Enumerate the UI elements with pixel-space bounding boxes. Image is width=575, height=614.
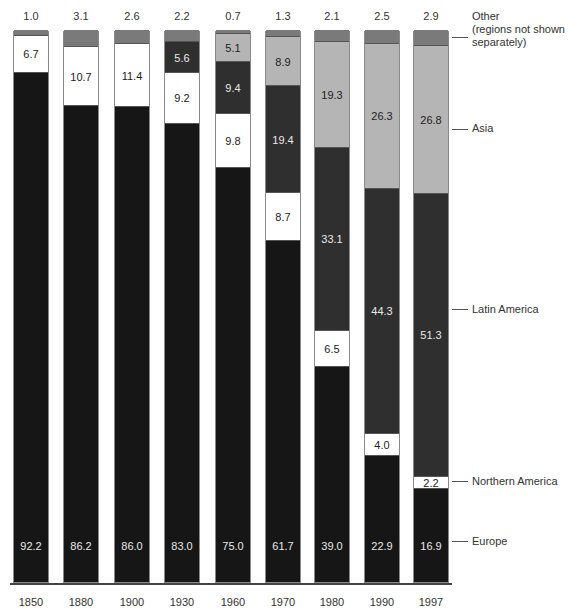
bar-1997: 16.92.251.326.8 — [413, 31, 449, 583]
legend-leader-line — [452, 541, 468, 542]
x-tick-label-1997: 1997 — [409, 596, 453, 608]
segment-europe-1997: 16.9 — [414, 489, 448, 582]
segment-northern-1880: 10.7 — [64, 47, 98, 106]
segment-europe-1970: 61.7 — [266, 241, 300, 582]
x-tick-label-1880: 1880 — [59, 596, 103, 608]
bar-1900: 86.011.4 — [114, 31, 150, 583]
value-label: 4.0 — [365, 439, 399, 451]
value-label: 6.5 — [315, 343, 349, 355]
legend-label-asia: Asia — [472, 122, 493, 135]
segment-latin-1980: 33.1 — [315, 148, 349, 331]
segment-northern-1990: 4.0 — [365, 434, 399, 456]
segment-latin-1997: 51.3 — [414, 194, 448, 477]
x-tick-label-1990: 1990 — [360, 596, 404, 608]
segment-other-1980 — [315, 30, 349, 42]
x-tick-label-1980: 1980 — [310, 596, 354, 608]
value-label: 61.7 — [266, 540, 300, 552]
segment-other-1990 — [365, 30, 399, 44]
bar-1980: 39.06.533.119.3 — [314, 31, 350, 583]
segment-europe-1880: 86.2 — [64, 106, 98, 582]
bar-1970: 61.78.719.48.9 — [265, 31, 301, 583]
x-tick-label-1900: 1900 — [110, 596, 154, 608]
other-value-label-1997: 2.9 — [411, 10, 451, 22]
other-value-label-1930: 2.2 — [162, 10, 202, 22]
value-label: 75.0 — [216, 540, 250, 552]
legend-leader-line — [452, 481, 468, 482]
value-label: 51.3 — [414, 329, 448, 341]
legend-label-europe: Europe — [472, 535, 507, 548]
legend-leader-line — [452, 129, 468, 130]
x-tick-label-1970: 1970 — [261, 596, 305, 608]
other-value-label-1990: 2.5 — [362, 10, 402, 22]
other-value-label-1850: 1.0 — [11, 10, 51, 22]
other-value-label-1880: 3.1 — [61, 10, 101, 22]
legend-label-northern-america: Northern America — [472, 475, 558, 488]
segment-asia-1997: 26.8 — [414, 46, 448, 194]
segment-asia-1970: 8.9 — [266, 37, 300, 86]
value-label: 5.6 — [165, 52, 199, 64]
value-label: 19.3 — [315, 89, 349, 101]
value-label: 92.2 — [14, 540, 48, 552]
value-label: 86.0 — [115, 540, 149, 552]
legend-label-other: Other (regions not shown separately) — [472, 10, 565, 49]
segment-northern-1970: 8.7 — [266, 193, 300, 241]
segment-other-1970 — [266, 30, 300, 37]
segment-europe-1850: 92.2 — [14, 73, 48, 582]
value-label: 9.2 — [165, 92, 199, 104]
x-axis-baseline — [10, 583, 452, 585]
value-label: 33.1 — [315, 233, 349, 245]
bar-1850: 92.26.7 — [13, 31, 49, 583]
value-label: 26.8 — [414, 114, 448, 126]
value-label: 22.9 — [365, 540, 399, 552]
segment-asia-1960: 5.1 — [216, 34, 250, 62]
value-label: 83.0 — [165, 540, 199, 552]
x-tick-label-1850: 1850 — [9, 596, 53, 608]
segment-asia-1990: 26.3 — [365, 44, 399, 189]
bar-1880: 86.210.7 — [63, 31, 99, 583]
value-label: 44.3 — [365, 305, 399, 317]
value-label: 10.7 — [64, 71, 98, 83]
value-label: 2.2 — [414, 477, 448, 489]
value-label: 5.1 — [216, 42, 250, 54]
segment-other-1960 — [216, 30, 250, 34]
segment-other-1880 — [64, 30, 98, 47]
segment-europe-1980: 39.0 — [315, 367, 349, 582]
segment-latin-1960: 9.4 — [216, 62, 250, 114]
stacked-bar-chart: 92.26.71.0185086.210.73.1188086.011.42.6… — [0, 0, 575, 614]
legend-label-latin-america: Latin America — [472, 303, 539, 316]
value-label: 26.3 — [365, 110, 399, 122]
bar-1990: 22.94.044.326.3 — [364, 31, 400, 583]
value-label: 39.0 — [315, 540, 349, 552]
segment-northern-1960: 9.8 — [216, 114, 250, 168]
segment-other-1850 — [14, 30, 48, 36]
segment-other-1900 — [115, 30, 149, 44]
segment-latin-1970: 19.4 — [266, 86, 300, 193]
legend-leader-line — [452, 309, 468, 310]
segment-europe-1990: 22.9 — [365, 456, 399, 582]
segment-europe-1900: 86.0 — [115, 107, 149, 582]
other-value-label-1970: 1.3 — [263, 10, 303, 22]
value-label: 86.2 — [64, 540, 98, 552]
value-label: 11.4 — [115, 70, 149, 82]
value-label: 16.9 — [414, 540, 448, 552]
segment-latin-1930: 5.6 — [165, 42, 199, 73]
value-label: 8.9 — [266, 56, 300, 68]
legend-leader-line — [452, 37, 468, 38]
other-value-label-1980: 2.1 — [312, 10, 352, 22]
other-value-label-1900: 2.6 — [112, 10, 152, 22]
bar-1930: 83.09.25.6 — [164, 31, 200, 583]
bar-1960: 75.09.89.45.1 — [215, 31, 251, 583]
segment-northern-1850: 6.7 — [14, 36, 48, 73]
value-label: 6.7 — [14, 48, 48, 60]
value-label: 8.7 — [266, 211, 300, 223]
value-label: 19.4 — [266, 134, 300, 146]
segment-other-1930 — [165, 30, 199, 42]
segment-northern-1980: 6.5 — [315, 331, 349, 367]
x-tick-label-1930: 1930 — [160, 596, 204, 608]
segment-europe-1930: 83.0 — [165, 124, 199, 582]
value-label: 9.4 — [216, 82, 250, 94]
segment-europe-1960: 75.0 — [216, 168, 250, 582]
x-tick-label-1960: 1960 — [211, 596, 255, 608]
segment-northern-1900: 11.4 — [115, 44, 149, 107]
segment-latin-1990: 44.3 — [365, 189, 399, 434]
